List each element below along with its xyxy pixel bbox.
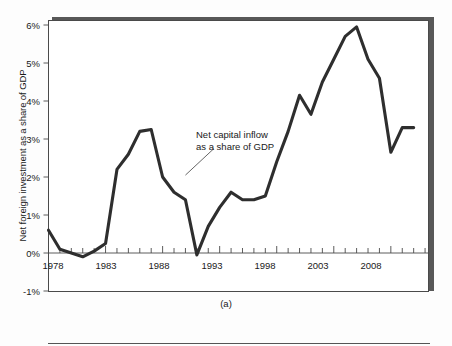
annotation-line-1: Net capital inflow	[196, 129, 274, 141]
annotation-line-2: as a share of GDP	[196, 141, 274, 153]
bottom-divider-rule	[48, 343, 430, 344]
panel-caption: (a)	[0, 298, 452, 309]
figure-container: Net foreign investment as a share of GDP…	[0, 0, 452, 346]
chart-svg	[0, 0, 452, 346]
annotation-leader-line	[185, 149, 214, 176]
chart-annotation: Net capital inflow as a share of GDP	[196, 129, 274, 152]
